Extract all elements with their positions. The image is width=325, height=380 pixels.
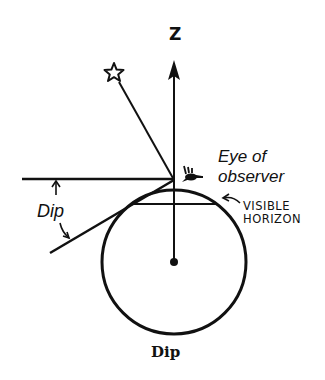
figure-caption: Dip	[151, 345, 180, 360]
eye-of-observer-label: Eye of observer	[218, 147, 284, 187]
dip-angle-label: Dip	[37, 202, 64, 220]
diagram-drawing	[0, 0, 325, 380]
dip-arrow-down	[60, 223, 69, 238]
dip-diagram: Z Eye of observer Dip VISIBLE HORIZON Di…	[0, 0, 325, 380]
eye-label-line1: Eye of	[218, 147, 284, 167]
horizon-label-line1: VISIBLE	[243, 200, 301, 213]
visible-horizon-label: VISIBLE HORIZON	[243, 200, 301, 225]
star-icon	[105, 63, 124, 81]
eye-label-line2: observer	[218, 167, 284, 187]
horizon-label-line2: HORIZON	[243, 213, 301, 226]
zenith-label: Z	[169, 26, 181, 43]
tangent-line	[50, 180, 174, 253]
eye-icon	[182, 166, 203, 182]
star-line	[119, 82, 174, 180]
dip-arrow-up	[52, 181, 60, 195]
horizon-pointer-arrow	[223, 194, 240, 203]
